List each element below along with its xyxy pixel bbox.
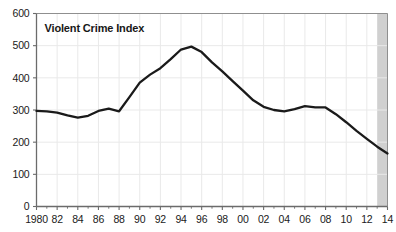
x-axis-tick-label: 82 bbox=[52, 213, 64, 225]
chart-canvas: 6005004003002001000 19808284868890929496… bbox=[0, 0, 396, 232]
y-axis-tick-label: 100 bbox=[13, 168, 30, 180]
x-axis-tick-label: 88 bbox=[113, 213, 125, 225]
x-axis-tick-label: 06 bbox=[299, 213, 311, 225]
y-axis-tick-label: 200 bbox=[13, 136, 30, 148]
x-axis-tick-label: 02 bbox=[258, 213, 270, 225]
x-axis-tick-label: 14 bbox=[382, 213, 394, 225]
x-axis-tick-label: 96 bbox=[196, 213, 208, 225]
y-axis-tick-label: 600 bbox=[13, 7, 30, 19]
x-axis-tick-label: 10 bbox=[341, 213, 353, 225]
x-axis-tick-label: 90 bbox=[134, 213, 146, 225]
x-axis-tick-label: 00 bbox=[237, 213, 249, 225]
x-axis-tick-label: 92 bbox=[155, 213, 167, 225]
x-axis-tick-label: 1980 bbox=[25, 213, 48, 225]
x-axis-tick-label: 94 bbox=[175, 213, 187, 225]
x-axis-tick-label: 08 bbox=[320, 213, 332, 225]
y-axis-tick-label: 400 bbox=[13, 72, 30, 84]
chart-title: Violent Crime Index bbox=[45, 22, 146, 34]
x-axis-tick-label: 98 bbox=[217, 213, 229, 225]
x-axis-tick-label: 84 bbox=[72, 213, 84, 225]
y-axis-tick-label: 300 bbox=[13, 104, 30, 116]
y-axis-tick-label: 500 bbox=[13, 39, 30, 51]
x-axis-tick-label: 86 bbox=[93, 213, 105, 225]
y-axis-tick-label: 0 bbox=[24, 200, 30, 212]
x-axis-tick-label: 04 bbox=[279, 213, 291, 225]
violent-crime-index-chart: 6005004003002001000 19808284868890929496… bbox=[0, 0, 396, 232]
x-axis-tick-label: 12 bbox=[361, 213, 373, 225]
